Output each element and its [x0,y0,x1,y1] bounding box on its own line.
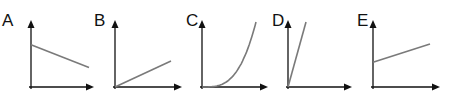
graph-e: E [357,11,440,91]
y-axis-arrow-icon [28,20,35,28]
graph-line [373,44,430,62]
graph-line [202,22,256,87]
x-axis-arrow-icon [260,84,268,91]
graph-d: D [272,11,352,91]
x-axis-arrow-icon [432,84,440,91]
x-axis-arrow-icon [174,84,182,91]
x-axis-arrow-icon [344,84,352,91]
graph-line [288,22,306,87]
graph-line [31,45,89,68]
graph-label: D [272,11,284,30]
graph-label: E [357,11,368,30]
y-axis-arrow-icon [370,20,377,28]
graphs-diagram: ABCDE [0,0,452,98]
graph-c: C [186,11,268,91]
y-axis-arrow-icon [285,20,292,28]
graph-label: B [94,11,105,30]
y-axis-arrow-icon [199,20,206,28]
graph-label: C [186,11,198,30]
x-axis-arrow-icon [86,84,94,91]
graph-line [115,61,171,87]
graph-b: B [94,11,182,91]
graph-label: A [2,11,14,30]
y-axis-arrow-icon [112,20,119,28]
graph-a: A [2,11,94,91]
